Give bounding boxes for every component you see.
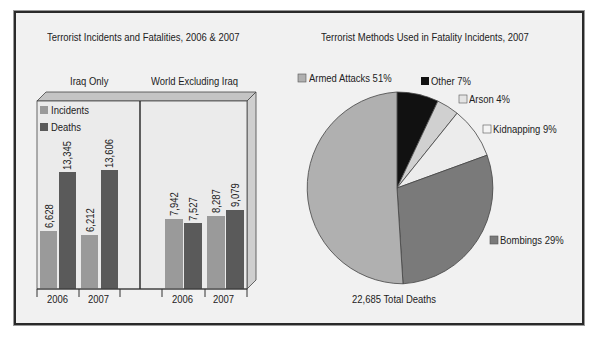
pie-total-label: 22,685 Total Deaths xyxy=(352,293,436,305)
left-chart-title: Terrorist Incidents and Fatalities, 2006… xyxy=(47,31,239,43)
legend-label-bombings: Bombings 29% xyxy=(500,234,564,246)
pie-slice-armed-attacks xyxy=(307,92,403,284)
panel-side-face xyxy=(247,92,256,289)
value-label-world-2006-incidents: 7,942 xyxy=(168,192,180,216)
value-label-world-2006-deaths: 7,527 xyxy=(187,197,199,221)
panel-label-world: World Excluding Iraq xyxy=(151,75,238,87)
legend-swatch-bombings xyxy=(490,236,498,244)
year-label-world-2007: 2007 xyxy=(213,293,234,305)
panel-label-iraq: Iraq Only xyxy=(70,75,108,87)
bar-world-2007-incidents xyxy=(207,216,225,289)
pie-chart xyxy=(307,92,493,284)
bar-world-2006-deaths xyxy=(184,223,202,289)
chart-graphics xyxy=(0,0,596,337)
legend-swatch-armed-attacks xyxy=(298,74,306,82)
panel-top-face xyxy=(37,92,256,101)
value-label-iraq-2007-incidents: 6,212 xyxy=(84,208,96,232)
bar-iraq-2006-deaths xyxy=(59,172,76,289)
legend-swatch-incidents xyxy=(40,106,48,114)
legend-label-deaths: Deaths xyxy=(51,121,81,133)
legend-swatch-deaths xyxy=(40,123,48,131)
value-label-iraq-2007-deaths: 13,606 xyxy=(103,139,115,168)
year-label-iraq-2007: 2007 xyxy=(88,293,109,305)
year-label-iraq-2006: 2006 xyxy=(47,293,68,305)
bar-world-2006-incidents xyxy=(165,219,183,289)
value-label-world-2007-deaths: 9,079 xyxy=(229,183,241,207)
legend-label-arson: Arson 4% xyxy=(469,93,510,105)
year-label-world-2006: 2006 xyxy=(172,293,193,305)
value-label-iraq-2006-incidents: 6,628 xyxy=(43,204,55,228)
legend-label-armed-attacks: Armed Attacks 51% xyxy=(309,72,392,84)
legend-label-incidents: Incidents xyxy=(51,104,89,116)
right-chart-title: Terrorist Methods Used in Fatality Incid… xyxy=(321,31,529,43)
legend-swatch-other xyxy=(421,77,429,85)
bar-iraq-2006-incidents xyxy=(40,231,57,289)
bar-world-2007-deaths xyxy=(226,210,244,289)
bar-iraq-2007-deaths xyxy=(101,170,118,289)
legend-swatch-arson xyxy=(459,95,467,103)
value-label-world-2007-incidents: 8,287 xyxy=(210,189,222,213)
value-label-iraq-2006-deaths: 13,345 xyxy=(61,141,73,170)
legend-swatch-kidnapping xyxy=(483,125,491,133)
legend-label-other: Other 7% xyxy=(431,75,471,87)
legend-label-kidnapping: Kidnapping 9% xyxy=(493,123,557,135)
bar-iraq-2007-incidents xyxy=(81,235,98,289)
